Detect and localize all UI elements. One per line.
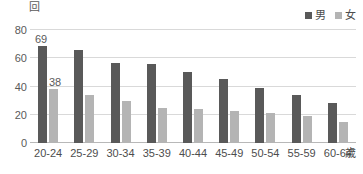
bar-group xyxy=(66,30,102,143)
legend-item-female[interactable]: 女 xyxy=(335,10,356,21)
bar-male[interactable] xyxy=(147,64,156,143)
bar-female[interactable] xyxy=(266,113,275,143)
bar-groups: 6938 xyxy=(30,30,356,143)
legend-label-male: 男 xyxy=(315,10,326,21)
bar-male[interactable] xyxy=(183,72,192,143)
bar-female[interactable] xyxy=(230,111,239,143)
bar-male[interactable] xyxy=(74,50,83,143)
bar-group xyxy=(247,30,283,143)
bar-value-label: 69 xyxy=(35,34,47,45)
bar-group xyxy=(139,30,175,143)
bar-female[interactable] xyxy=(194,109,203,143)
x-axis-tick-label: 30-34 xyxy=(102,148,138,159)
bar-group: 6938 xyxy=(30,30,66,143)
bar-value-label: 38 xyxy=(49,77,61,88)
y-axis-tick-label: 80 xyxy=(3,25,27,36)
x-axis-tick-label: 35-39 xyxy=(139,148,175,159)
x-axis-labels: 20-2425-2930-3435-3940-4445-4950-5455-59… xyxy=(30,148,356,159)
bar-male[interactable] xyxy=(255,88,264,143)
legend-swatch-female xyxy=(335,12,342,19)
bar-male[interactable] xyxy=(111,63,120,144)
bar-male[interactable] xyxy=(219,79,228,143)
bar-female[interactable] xyxy=(85,95,94,143)
chart-legend: 男 女 xyxy=(305,10,356,21)
y-axis-tick-label: 20 xyxy=(3,109,27,120)
x-axis-tick-label: 20-24 xyxy=(30,148,66,159)
x-axis-tick-label: 45-49 xyxy=(211,148,247,159)
bar-female[interactable] xyxy=(303,116,312,143)
bar-female[interactable] xyxy=(158,108,167,143)
bar-group xyxy=(320,30,356,143)
x-axis-tick-label: 25-29 xyxy=(66,148,102,159)
plot-area: 6938 xyxy=(30,30,356,143)
y-axis-tick-label: 60 xyxy=(3,53,27,64)
legend-swatch-male xyxy=(305,12,312,19)
bar-group xyxy=(175,30,211,143)
x-axis-unit-label: 歳 xyxy=(345,148,356,159)
bar-group xyxy=(211,30,247,143)
x-axis-tick-label: 50-54 xyxy=(247,148,283,159)
bar-male[interactable] xyxy=(328,103,337,143)
bar-male[interactable] xyxy=(38,46,47,143)
bar-group xyxy=(284,30,320,143)
bar-female[interactable] xyxy=(339,122,348,143)
x-axis-tick-label: 55-59 xyxy=(284,148,320,159)
bar-female[interactable] xyxy=(122,101,131,143)
bar-male[interactable] xyxy=(292,95,301,143)
y-axis-unit-label: 回 xyxy=(29,2,40,13)
bar-female[interactable] xyxy=(49,89,58,143)
y-axis-tick-label: 0 xyxy=(3,138,27,149)
bar-group xyxy=(102,30,138,143)
bar-chart: 回 男 女 020406080 6938 20-2425-2930-3435-3… xyxy=(0,0,363,174)
y-axis-tick-label: 40 xyxy=(3,81,27,92)
legend-label-female: 女 xyxy=(345,10,356,21)
x-axis-tick-label: 40-44 xyxy=(175,148,211,159)
legend-item-male[interactable]: 男 xyxy=(305,10,326,21)
